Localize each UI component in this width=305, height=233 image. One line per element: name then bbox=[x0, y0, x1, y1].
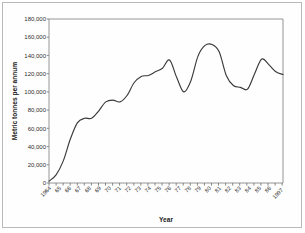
x-tick-label: 79 bbox=[194, 185, 203, 194]
x-tick-label: 72 bbox=[124, 185, 133, 194]
x-tick-label: 68 bbox=[84, 185, 93, 194]
figure-page: 180,000 160,000 140,000 120,000 100,000 … bbox=[0, 0, 305, 233]
y-tick-label: 40,000 bbox=[28, 144, 47, 150]
y-tick-label: 100,000 bbox=[24, 89, 46, 95]
y-tick-label: 20,000 bbox=[28, 162, 47, 168]
y-tick-label: 80,000 bbox=[28, 107, 47, 113]
x-tick-label: 84 bbox=[244, 185, 253, 194]
x-tick-label: 1964 bbox=[39, 185, 52, 198]
x-tick-label: 69 bbox=[94, 185, 103, 194]
plot-frame bbox=[49, 19, 283, 183]
x-tick-label: 75 bbox=[154, 185, 163, 194]
x-tick-label: 74 bbox=[144, 185, 153, 194]
x-tick-label: 70 bbox=[104, 185, 113, 194]
data-series bbox=[49, 44, 283, 181]
x-tick-label: 86 bbox=[264, 185, 273, 194]
x-tick-label: 65 bbox=[54, 185, 63, 194]
y-tick-label: 60,000 bbox=[28, 126, 47, 132]
x-axis-tick-labels: 1964 65 66 67 68 69 70 71 72 73 74 75 76… bbox=[39, 185, 284, 200]
series-line-metric-tonnes bbox=[49, 44, 283, 181]
x-tick-label: 85 bbox=[254, 185, 263, 194]
x-tick-label: 1997 bbox=[271, 187, 284, 200]
y-tick-label: 180,000 bbox=[24, 16, 46, 22]
x-tick-label: 73 bbox=[134, 185, 143, 194]
line-chart: 180,000 160,000 140,000 120,000 100,000 … bbox=[0, 0, 305, 233]
x-tick-label: 76 bbox=[164, 185, 173, 194]
chart-svg: 180,000 160,000 140,000 120,000 100,000 … bbox=[0, 0, 305, 233]
x-axis-title: Year bbox=[159, 216, 173, 223]
x-tick-label: 77 bbox=[174, 185, 183, 194]
y-tick-label: 160,000 bbox=[24, 34, 46, 40]
x-tick-label: 80 bbox=[204, 185, 213, 194]
x-tick-label: 81 bbox=[214, 185, 223, 194]
x-tick-label: 78 bbox=[184, 185, 193, 194]
x-tick-label: 82 bbox=[224, 185, 233, 194]
y-axis-tick-labels: 180,000 160,000 140,000 120,000 100,000 … bbox=[24, 16, 46, 186]
x-tick-label: 71 bbox=[114, 185, 123, 194]
x-tick-label: 67 bbox=[74, 185, 83, 194]
x-tick-label: 83 bbox=[234, 185, 243, 194]
y-tick-label: 140,000 bbox=[24, 53, 46, 59]
y-axis-title: Metric tonnes per annum bbox=[11, 62, 19, 141]
x-tick-label: 66 bbox=[64, 185, 73, 194]
y-tick-label: 0 bbox=[43, 180, 47, 186]
y-tick-label: 120,000 bbox=[24, 71, 46, 77]
